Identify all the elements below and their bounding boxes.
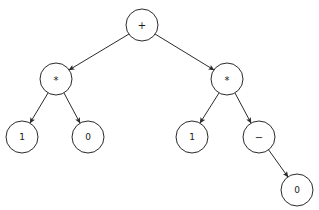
node-label: 1 bbox=[189, 132, 195, 142]
tree-edge bbox=[200, 93, 219, 123]
node-label: 0 bbox=[85, 132, 91, 142]
tree-node[interactable]: + bbox=[126, 9, 158, 41]
nodes-layer: +**101−0 bbox=[6, 9, 313, 206]
tree-edge bbox=[155, 34, 214, 70]
tree-node[interactable]: * bbox=[40, 63, 72, 95]
tree-edge bbox=[30, 93, 48, 123]
node-label: 1 bbox=[19, 132, 25, 142]
tree-edge bbox=[235, 93, 251, 123]
tree-node[interactable]: − bbox=[243, 121, 275, 153]
node-label: * bbox=[225, 75, 230, 86]
tree-edge bbox=[69, 34, 129, 70]
tree-node[interactable]: 0 bbox=[281, 174, 313, 206]
node-label: − bbox=[255, 132, 263, 143]
expression-tree-diagram: +**101−0 bbox=[0, 0, 319, 210]
tree-node[interactable]: * bbox=[211, 63, 243, 95]
tree-canvas: +**101−0 bbox=[0, 0, 319, 210]
tree-node[interactable]: 1 bbox=[6, 121, 38, 153]
tree-edge bbox=[268, 149, 288, 177]
node-label: + bbox=[138, 20, 146, 31]
edges-layer bbox=[30, 34, 288, 177]
tree-edge bbox=[64, 93, 80, 123]
node-label: 0 bbox=[294, 185, 300, 195]
node-label: * bbox=[54, 75, 59, 86]
tree-node[interactable]: 1 bbox=[176, 121, 208, 153]
tree-node[interactable]: 0 bbox=[72, 121, 104, 153]
